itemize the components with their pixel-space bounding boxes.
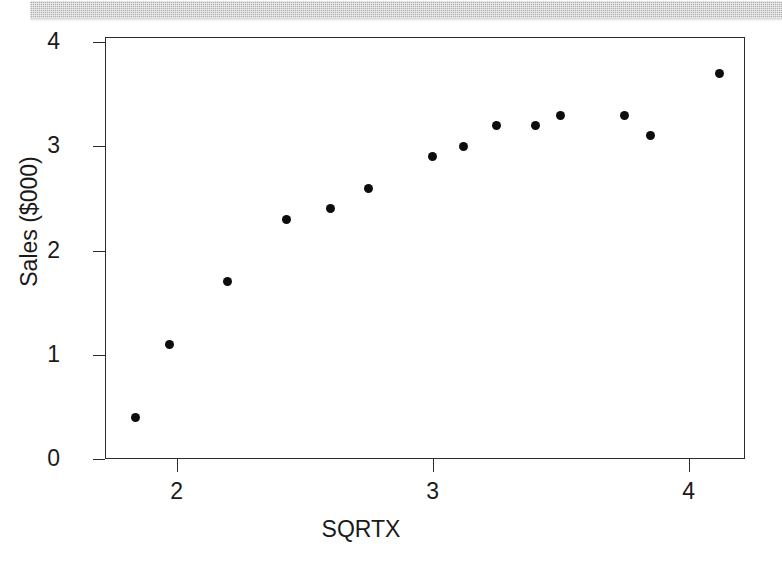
y-axis-tick bbox=[93, 251, 105, 252]
y-axis-title: Sales ($000) bbox=[16, 132, 43, 312]
x-axis-title-text: SQRTX bbox=[322, 516, 401, 543]
scatter-point bbox=[459, 142, 468, 151]
x-axis-title: SQRTX bbox=[0, 516, 782, 543]
y-axis-tick-label: 1 bbox=[20, 343, 60, 366]
x-axis-tick-label: 4 bbox=[664, 479, 714, 504]
y-axis-tick bbox=[93, 355, 105, 356]
x-axis-tick bbox=[433, 459, 434, 472]
scatter-point bbox=[715, 69, 724, 78]
scatter-point bbox=[556, 111, 565, 120]
x-axis-tick-label: 2 bbox=[152, 479, 202, 504]
scatter-point bbox=[131, 413, 140, 422]
plot-area bbox=[105, 37, 745, 459]
y-axis-tick bbox=[93, 146, 105, 147]
scatter-point bbox=[531, 121, 540, 130]
y-axis-tick bbox=[93, 42, 105, 43]
y-axis-tick bbox=[93, 459, 105, 460]
y-axis-tick-label: 4 bbox=[20, 30, 60, 53]
y-axis-tick-label: 0 bbox=[20, 447, 60, 470]
x-axis-tick-label: 3 bbox=[408, 479, 458, 504]
x-axis-tick bbox=[177, 459, 178, 472]
scatter-point bbox=[364, 184, 373, 193]
x-axis-tick bbox=[689, 459, 690, 472]
scatter-plot-figure: 01234 234 SQRTX Sales ($000) bbox=[0, 0, 782, 572]
scatter-point bbox=[620, 111, 629, 120]
scatter-point bbox=[165, 340, 174, 349]
